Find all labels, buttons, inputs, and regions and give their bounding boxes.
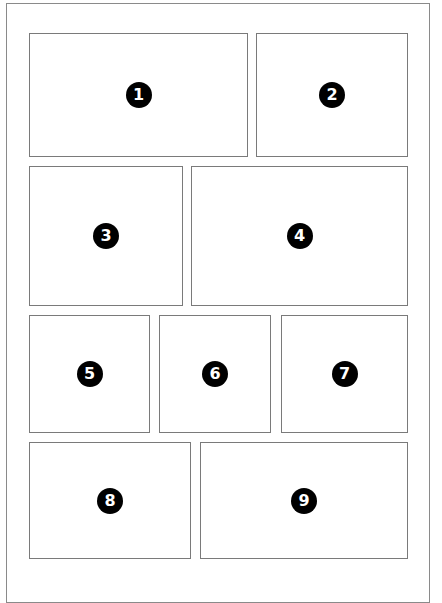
panel-number-badge: 2	[319, 82, 345, 108]
panel-6: 6	[159, 315, 271, 433]
panel-7: 7	[281, 315, 408, 433]
panel-2: 2	[256, 33, 408, 157]
panel-number-badge: 8	[97, 488, 123, 514]
panel-number-badge: 1	[126, 82, 152, 108]
panel-number-badge: 5	[77, 361, 103, 387]
panel-4: 4	[191, 166, 408, 306]
panel-9: 9	[200, 442, 408, 559]
panel-number-badge: 3	[93, 223, 119, 249]
panel-5: 5	[29, 315, 150, 433]
panel-1: 1	[29, 33, 248, 157]
panel-number-badge: 7	[332, 361, 358, 387]
panel-3: 3	[29, 166, 183, 306]
panel-8: 8	[29, 442, 191, 559]
panel-number-badge: 9	[291, 488, 317, 514]
panel-number-badge: 4	[287, 223, 313, 249]
panel-number-badge: 6	[202, 361, 228, 387]
